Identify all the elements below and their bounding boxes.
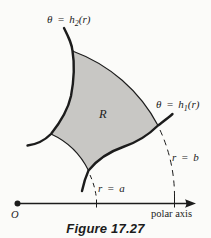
label-theta-h2-suffix: (r) xyxy=(79,13,91,26)
figure-17-27-diagram: θ = h2(r) θ = h1(r) r = b r = a R O pola… xyxy=(0,0,211,238)
label-region-r: R xyxy=(98,107,107,121)
label-polar-axis: polar axis xyxy=(151,208,192,219)
figure-canvas: θ = h2(r) θ = h1(r) r = b r = a R O pola… xyxy=(0,0,211,238)
figure-caption: Figure 17.27 xyxy=(66,221,145,236)
label-r-equals-b: r = b xyxy=(172,151,199,163)
origin-dot xyxy=(15,201,21,207)
label-theta-h1-prefix: θ = h xyxy=(156,98,184,110)
label-theta-h1-suffix: (r) xyxy=(188,98,200,111)
label-theta-h2-prefix: θ = h xyxy=(47,13,75,25)
label-origin-o: O xyxy=(11,209,19,220)
label-r-equals-a: r = a xyxy=(98,182,125,194)
